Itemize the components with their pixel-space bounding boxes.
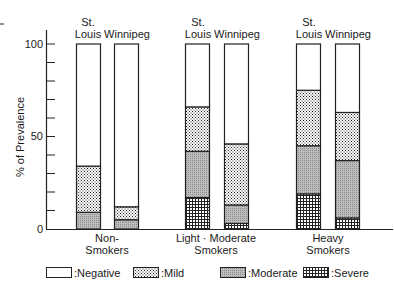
bar-segment-severe — [297, 194, 321, 229]
bar-segment-negative — [115, 44, 139, 207]
svg-text:Winnipeg: Winnipeg — [325, 28, 371, 40]
bar-segment-negative — [297, 44, 321, 90]
bar-segment-severe — [186, 198, 210, 229]
svg-text:Louis: Louis — [75, 28, 102, 40]
bar-segment-negative — [186, 44, 210, 107]
svg-text:Smokers: Smokers — [306, 244, 350, 256]
bar-segment-mild — [336, 112, 360, 160]
svg-text:Winnipeg: Winnipeg — [104, 28, 150, 40]
y-tick-100: 100 — [25, 38, 43, 50]
svg-text:Smokers: Smokers — [85, 244, 129, 256]
bar-segment-negative — [336, 44, 360, 112]
legend-swatch-moderate — [221, 268, 246, 278]
svg-text:Heavy: Heavy — [312, 232, 344, 244]
svg-text:Louis: Louis — [185, 28, 212, 40]
y-tick-0: 0 — [37, 223, 43, 235]
bar-segment-severe — [225, 223, 249, 229]
group-labels: Non- Smokers Light · Moderate Smokers He… — [85, 232, 350, 256]
bar-headers: St. Louis Winnipeg St. Louis Winnipeg St… — [75, 16, 371, 40]
legend: :Negative :Mild :Moderate :Severe — [47, 267, 369, 279]
legend-label-negative: :Negative — [74, 267, 120, 279]
svg-text:St.: St. — [302, 16, 315, 28]
bar-segment-moderate — [225, 205, 249, 224]
bar-segment-mild — [225, 144, 249, 205]
svg-text:Light · Moderate: Light · Moderate — [176, 232, 256, 244]
bar-segment-mild — [186, 107, 210, 151]
bar-segment-moderate — [336, 161, 360, 218]
legend-swatch-mild — [134, 268, 159, 278]
legend-label-mild: :Mild — [161, 267, 184, 279]
bar-segment-mild — [115, 207, 139, 220]
prevalence-chart: 100 50 0 % of Prevalence St. Louis Winni… — [0, 0, 394, 296]
bars — [77, 44, 360, 229]
svg-text:Winnipeg: Winnipeg — [214, 28, 260, 40]
svg-text:Louis: Louis — [296, 28, 323, 40]
bar-segment-moderate — [115, 220, 139, 229]
bar-segment-mild — [77, 166, 101, 212]
bar-segment-moderate — [77, 212, 101, 229]
svg-text:St.: St. — [191, 16, 204, 28]
svg-text:Non-: Non- — [95, 232, 119, 244]
legend-swatch-negative — [47, 268, 72, 278]
y-tick-50: 50 — [31, 130, 43, 142]
y-axis-label: % of Prevalence — [14, 97, 26, 177]
bar-segment-mild — [297, 90, 321, 146]
svg-text:Smokers: Smokers — [194, 244, 238, 256]
bar-segment-negative — [225, 44, 249, 144]
legend-swatch-severe — [304, 268, 329, 278]
bar-segment-severe — [336, 218, 360, 229]
legend-label-severe: :Severe — [331, 267, 369, 279]
svg-text:St.: St. — [81, 16, 94, 28]
bar-segment-moderate — [297, 146, 321, 194]
bar-segment-negative — [77, 44, 101, 166]
bar-segment-moderate — [186, 151, 210, 197]
legend-label-moderate: :Moderate — [248, 267, 298, 279]
